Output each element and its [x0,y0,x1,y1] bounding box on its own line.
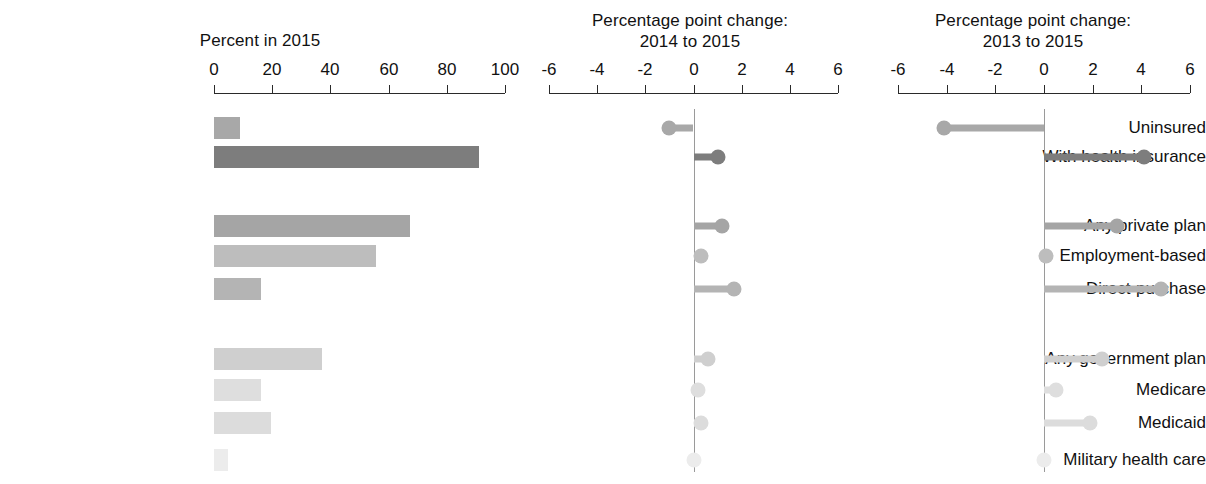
x-axis-tick-mark [898,85,899,93]
x-axis-tick-label: 40 [321,59,340,81]
x-axis-tick-label: 2 [737,59,746,81]
datapoint-direct-purchase [1153,282,1168,297]
bar-any-government-plan [214,348,322,370]
datapoint-medicaid [1083,416,1098,431]
x-axis-tick-label: 0 [689,59,698,81]
stem-with-health-insurance [1044,154,1144,161]
bar-uninsured [214,117,240,139]
panel-percent-in-2015: Percent in 2015020406080100 [0,0,520,484]
x-axis-tick-mark [1141,85,1142,93]
health-insurance-coverage-figure: UninsuredWith health insuranceAny privat… [0,0,1206,484]
datapoint-with-health-insurance [710,150,725,165]
datapoint-military-health-care [1037,453,1052,468]
panel-title-line: Percentage point change: [860,10,1206,31]
datapoint-employment-based [693,249,708,264]
datapoint-military-health-care [686,453,701,468]
x-axis-tick-label: -2 [637,59,652,81]
x-axis-tick-mark [447,85,448,93]
panel-title-line: 2013 to 2015 [860,31,1206,52]
panel-change-2014-to-2015: Percentage point change:2014 to 2015-6-4… [520,0,860,484]
datapoint-with-health-insurance [1136,150,1151,165]
x-axis-tick-mark [389,85,390,93]
x-axis-tick-mark [214,85,215,93]
x-axis-tick-mark [272,85,273,93]
x-axis-tick-label: 80 [438,59,457,81]
x-axis-tick-mark [838,85,839,93]
x-axis-tick-mark [645,85,646,93]
x-axis-tick-mark [947,85,948,93]
x-axis-tick-label: -6 [541,59,556,81]
stem-any-government-plan [1044,356,1102,363]
datapoint-direct-purchase [727,282,742,297]
bar-medicaid [214,412,271,434]
bar-direct-purchase [214,278,261,300]
x-axis-tick-mark [1093,85,1094,93]
stem-uninsured [944,125,1044,132]
stem-any-private-plan [1044,223,1117,230]
x-axis-line [898,93,1190,94]
bar-employment-based [214,245,376,267]
datapoint-any-government-plan [700,352,715,367]
datapoint-medicare [691,383,706,398]
datapoint-any-private-plan [715,219,730,234]
x-axis-tick-label: -4 [939,59,954,81]
x-axis-tick-label: 4 [785,59,794,81]
x-axis-line [214,93,505,94]
datapoint-medicaid [693,416,708,431]
x-axis-tick-label: 60 [380,59,399,81]
bar-medicare [214,379,261,401]
x-axis-tick-mark [549,85,550,93]
x-axis-tick-label: -6 [890,59,905,81]
datapoint-medicare [1049,383,1064,398]
panel-change-2013-to-2015: Percentage point change:2013 to 2015-6-4… [860,0,1206,484]
panel-title-line: Percentage point change: [520,10,860,31]
datapoint-any-private-plan [1110,219,1125,234]
x-axis-tick-label: -2 [987,59,1002,81]
x-axis-tick-mark [597,85,598,93]
x-axis-tick-label: 100 [491,59,519,81]
x-axis-tick-label: 0 [1039,59,1048,81]
x-axis-tick-label: 2 [1088,59,1097,81]
datapoint-uninsured [662,121,677,136]
datapoint-any-government-plan [1095,352,1110,367]
bar-military-health-care [214,449,228,471]
bar-with-health-insurance [214,146,479,168]
x-axis-tick-mark [505,85,506,93]
x-axis-tick-mark [790,85,791,93]
x-axis-tick-label: -4 [589,59,604,81]
stem-direct-purchase [1044,286,1161,293]
datapoint-uninsured [937,121,952,136]
panel-title-line: 2014 to 2015 [520,31,860,52]
x-axis-tick-mark [330,85,331,93]
bar-any-private-plan [214,215,410,237]
datapoint-employment-based [1039,249,1054,264]
x-axis-tick-label: 20 [263,59,282,81]
x-axis-tick-label: 6 [833,59,842,81]
x-axis-tick-mark [742,85,743,93]
x-axis-tick-label: 6 [1185,59,1194,81]
x-axis-tick-label: 0 [209,59,218,81]
x-axis-tick-mark [694,85,695,93]
x-axis-line [549,93,838,94]
panel-title-line: Percent in 2015 [0,30,520,51]
x-axis-tick-mark [1190,85,1191,93]
x-axis-tick-mark [1044,85,1045,93]
x-axis-tick-label: 4 [1136,59,1145,81]
x-axis-tick-mark [995,85,996,93]
